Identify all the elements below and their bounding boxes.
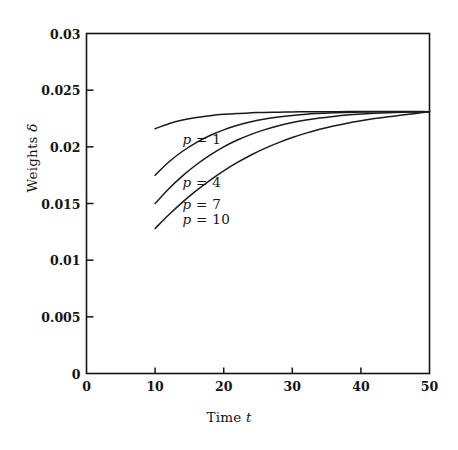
curve-series-0 [155,112,429,129]
series-label-p-10: p = 10 [183,211,231,227]
y-tick-label: 0.03 [50,26,80,41]
series-label-value: = 10 [191,211,230,227]
x-tick-label: 50 [421,379,438,394]
plot-frame [87,34,430,374]
x-tick-label: 20 [215,379,232,394]
y-tick-label: 0.02 [50,139,80,154]
series-label-symbol: p [183,174,192,190]
x-tick-label: 30 [284,379,301,394]
y-tick-label: 0.025 [41,83,80,98]
y-axis-title: Weights δ [24,98,40,218]
y-tick-label: 0 [72,366,81,381]
series-label-symbol: p [183,196,192,212]
series-label-p-4: p = 4 [183,174,222,190]
chart-figure: 00.0050.010.0150.020.0250.03 01020304050… [0,0,458,450]
y-tick-label: 0.005 [41,309,80,324]
y-tick-label: 0.01 [50,253,80,268]
x-tick-label: 10 [146,379,163,394]
series-label-value: = 4 [191,174,221,190]
y-tick-label: 0.015 [41,196,80,211]
x-tick-label: 40 [352,379,369,394]
series-label-value: = 1 [191,131,221,147]
series-label-p-1: p = 1 [183,131,222,147]
y-axis-title-text: Weights [24,132,40,193]
y-axis-title-symbol: δ [24,124,40,132]
series-label-p-7: p = 7 [183,196,222,212]
series-label-symbol: p [183,211,192,227]
x-axis-title-symbol: t [246,409,252,425]
x-axis-title: Time t [0,409,458,425]
x-axis-title-text: Time [206,409,245,425]
x-tick-label: 0 [82,379,91,394]
series-label-value: = 7 [191,196,221,212]
series-label-symbol: p [183,131,192,147]
axes [87,34,430,374]
